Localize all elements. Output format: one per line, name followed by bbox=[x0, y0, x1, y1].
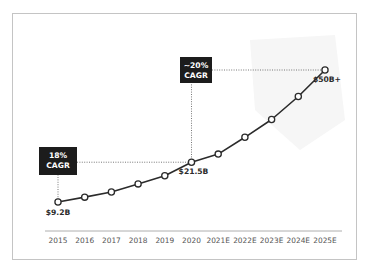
data-point bbox=[55, 199, 61, 205]
cagr-callout-text: CAGR bbox=[184, 71, 208, 80]
data-point bbox=[108, 189, 114, 195]
x-tick-label: 2024E bbox=[287, 236, 311, 245]
data-point bbox=[135, 181, 141, 187]
x-tick-label: 2018 bbox=[129, 236, 148, 245]
cagr-callout-text: CAGR bbox=[46, 161, 70, 170]
x-tick-label: 2025E bbox=[313, 236, 337, 245]
data-point bbox=[269, 116, 275, 122]
data-label: $9.2B bbox=[46, 208, 71, 217]
watermark-shape bbox=[250, 35, 345, 150]
x-tick-label: 2016 bbox=[75, 236, 94, 245]
background-watermark bbox=[250, 35, 345, 150]
cagr-callouts: 18%CAGR~20%CAGR bbox=[39, 57, 212, 175]
data-label: $21.5B bbox=[179, 167, 209, 176]
x-tick-label: 2023E bbox=[260, 236, 284, 245]
x-tick-label: 2021E bbox=[206, 236, 230, 245]
data-point bbox=[188, 159, 194, 165]
x-tick-label: 2015 bbox=[49, 236, 68, 245]
x-tick-label: 2022E bbox=[233, 236, 257, 245]
cagr-callout-text: 18% bbox=[49, 151, 68, 160]
x-tick-label: 2017 bbox=[102, 236, 121, 245]
x-axis-ticks: 2015201620172018201920202021E2022E2023E2… bbox=[49, 236, 337, 245]
x-tick-label: 2019 bbox=[155, 236, 174, 245]
data-point bbox=[215, 151, 221, 157]
data-point bbox=[162, 173, 168, 179]
data-point bbox=[295, 93, 301, 99]
x-tick-label: 2020 bbox=[182, 236, 201, 245]
data-label: $50B+ bbox=[313, 75, 341, 84]
cagr-line-chart: 2015201620172018201920202021E2022E2023E2… bbox=[0, 0, 369, 272]
cagr-callout-text: ~20% bbox=[184, 61, 209, 70]
data-point bbox=[322, 67, 328, 73]
data-point bbox=[242, 134, 248, 140]
data-point bbox=[82, 194, 88, 200]
